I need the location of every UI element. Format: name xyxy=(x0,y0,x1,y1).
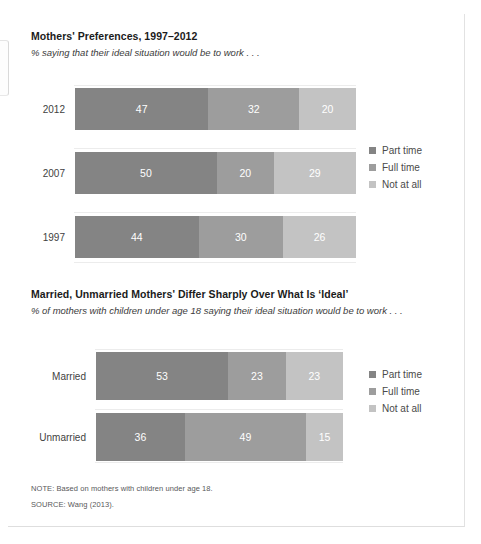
chart2-title: Married, Unmarried Mothers' Differ Sharp… xyxy=(31,288,409,300)
chart2-rule-bottom xyxy=(95,462,343,463)
stacked-bar: 44 30 26 xyxy=(75,216,356,258)
legend-label: Full time xyxy=(382,386,420,397)
stacked-bar: 47 32 20 xyxy=(75,88,356,130)
bar-segment-not-at-all: 20 xyxy=(299,88,356,130)
bar-segment-not-at-all: 15 xyxy=(306,413,343,461)
bar-row: 2012 47 32 20 xyxy=(20,88,356,130)
bar-row: 2007 50 20 29 xyxy=(20,152,356,194)
bar-row-label: 2007 xyxy=(20,168,75,179)
bar-segment-value: 15 xyxy=(319,431,331,443)
chart-married-unmarried: Married, Unmarried Mothers' Differ Sharp… xyxy=(31,288,409,318)
legend-item-not-at-all: Not at all xyxy=(369,176,422,193)
chart2-rule-1 xyxy=(95,409,343,410)
bar-row: Married 53 23 23 xyxy=(20,352,343,400)
legend-label: Not at all xyxy=(382,403,421,414)
bar-segment-full-time: 32 xyxy=(208,88,299,130)
chart2-legend: Part time Full time Not at all xyxy=(369,366,422,417)
bar-segment-part-time: 36 xyxy=(96,413,185,461)
bar-row-label: Married xyxy=(20,371,96,382)
bar-segment-not-at-all: 26 xyxy=(283,216,356,258)
legend-item-part-time: Part time xyxy=(369,366,422,383)
chart1-rule-bottom xyxy=(74,262,356,263)
bar-row-label: Unmarried xyxy=(20,432,96,443)
stacked-bar: 53 23 23 xyxy=(96,352,343,400)
legend-swatch-full-time xyxy=(369,388,376,395)
bar-segment-not-at-all: 23 xyxy=(286,352,343,400)
legend-swatch-not-at-all xyxy=(369,181,376,188)
chart1-title: Mothers' Preferences, 1997–2012 xyxy=(31,30,421,42)
bar-segment-value: 23 xyxy=(308,370,320,382)
bar-row-label: 2012 xyxy=(20,104,75,115)
legend-swatch-part-time xyxy=(369,147,376,154)
bar-segment-part-time: 47 xyxy=(75,88,208,130)
bar-segment-full-time: 23 xyxy=(228,352,285,400)
legend-label: Part time xyxy=(382,369,422,380)
legend-item-not-at-all: Not at all xyxy=(369,400,422,417)
bar-segment-value: 49 xyxy=(240,431,252,443)
chart1-rule-2 xyxy=(74,212,356,213)
bar-row: 1997 44 30 26 xyxy=(20,216,356,258)
bar-segment-value: 29 xyxy=(309,167,321,179)
legend-item-part-time: Part time xyxy=(369,142,422,159)
bar-segment-value: 44 xyxy=(131,231,143,243)
legend-item-full-time: Full time xyxy=(369,159,422,176)
bar-segment-value: 47 xyxy=(136,103,148,115)
bar-segment-value: 30 xyxy=(235,231,247,243)
chart1-rule-top xyxy=(74,85,356,86)
legend-swatch-not-at-all xyxy=(369,405,376,412)
bar-segment-part-time: 53 xyxy=(96,352,228,400)
chart1-rule-1 xyxy=(74,148,356,149)
note-text: NOTE: Based on mothers with children und… xyxy=(31,484,213,493)
bar-segment-value: 50 xyxy=(140,167,152,179)
chart-mothers-preferences: Mothers' Preferences, 1997–2012 % saying… xyxy=(31,30,421,60)
bar-row: Unmarried 36 49 15 xyxy=(20,413,343,461)
chart1-legend: Part time Full time Not at all xyxy=(369,142,422,193)
source-text: SOURCE: Wang (2013). xyxy=(31,500,114,509)
bar-segment-part-time: 50 xyxy=(75,152,217,194)
chart2-subtitle: % of mothers with children under age 18 … xyxy=(31,304,409,318)
bar-segment-value: 26 xyxy=(314,231,326,243)
bar-segment-value: 36 xyxy=(135,431,147,443)
legend-label: Not at all xyxy=(382,179,421,190)
bar-segment-full-time: 20 xyxy=(217,152,274,194)
bar-segment-value: 20 xyxy=(322,103,334,115)
legend-item-full-time: Full time xyxy=(369,383,422,400)
bar-segment-not-at-all: 29 xyxy=(274,152,356,194)
bar-row-label: 1997 xyxy=(20,232,75,243)
bar-segment-value: 23 xyxy=(251,370,263,382)
bar-segment-full-time: 30 xyxy=(199,216,283,258)
legend-label: Full time xyxy=(382,162,420,173)
bar-segment-value: 53 xyxy=(156,370,168,382)
page-edge-artifact xyxy=(0,40,9,96)
bar-segment-full-time: 49 xyxy=(185,413,306,461)
legend-swatch-part-time xyxy=(369,371,376,378)
chart2-rule-top xyxy=(95,349,343,350)
legend-swatch-full-time xyxy=(369,164,376,171)
bar-segment-value: 20 xyxy=(239,167,251,179)
bar-segment-part-time: 44 xyxy=(75,216,199,258)
bar-segment-value: 32 xyxy=(248,103,260,115)
stacked-bar: 36 49 15 xyxy=(96,413,343,461)
chart1-subtitle: % saying that their ideal situation woul… xyxy=(31,46,421,60)
stacked-bar: 50 20 29 xyxy=(75,152,356,194)
legend-label: Part time xyxy=(382,145,422,156)
